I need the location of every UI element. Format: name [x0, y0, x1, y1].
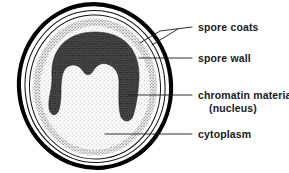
spore-diagram: spore coats spore wall chromatin materia… — [0, 0, 289, 173]
labels-group: spore coats spore wall chromatin materia… — [198, 21, 289, 140]
label-cytoplasm: cytoplasm — [198, 128, 251, 140]
label-nucleus: (nucleus) — [209, 102, 257, 114]
label-chromatin-material: chromatin material — [198, 89, 289, 101]
label-spore-coats: spore coats — [198, 21, 259, 33]
label-spore-wall: spore wall — [198, 52, 251, 64]
